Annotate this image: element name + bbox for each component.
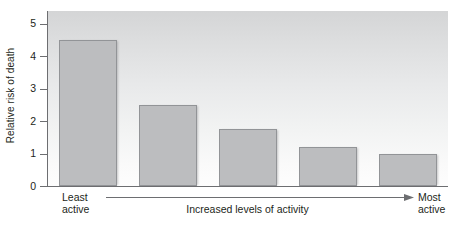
y-axis-tick-label: 0: [20, 181, 36, 192]
y-axis-tick: [40, 24, 47, 25]
y-axis-tick-label: 1: [20, 148, 36, 159]
bar: [59, 40, 117, 186]
bar-chart-figure: Relative risk of death 012345 Least acti…: [0, 0, 457, 226]
bar: [379, 154, 437, 186]
y-axis-tick: [40, 121, 47, 122]
x-axis-caption: Increased levels of activity: [47, 204, 448, 216]
bar: [219, 129, 277, 186]
bar: [139, 105, 197, 186]
y-axis-tick: [40, 56, 47, 57]
increasing-activity-arrow-icon: [106, 192, 414, 203]
plot-area: [48, 11, 448, 186]
y-axis-title: Relative risk of death: [2, 0, 20, 190]
y-axis-tick-label: 4: [20, 51, 36, 62]
y-axis-tick: [40, 186, 47, 187]
least-active-line1: Least: [62, 192, 89, 204]
y-axis-tick: [40, 154, 47, 155]
x-axis-line: [47, 186, 448, 187]
y-axis-title-text: Relative risk of death: [6, 47, 17, 143]
bar: [299, 147, 357, 186]
y-axis-tick-label: 5: [20, 18, 36, 29]
y-axis-tick: [40, 89, 47, 90]
most-active-line1: Most: [418, 192, 445, 204]
y-axis-tick-label: 2: [20, 116, 36, 127]
bar-series: [48, 11, 448, 186]
y-axis-tick-label: 3: [20, 83, 36, 94]
